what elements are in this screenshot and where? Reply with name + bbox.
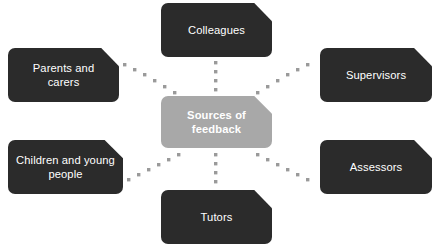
node-assessors: Assessors	[320, 140, 432, 194]
node-tutors-label: Tutors	[201, 210, 233, 224]
connector-center-tutors	[214, 153, 217, 183]
node-colleagues-label: Colleagues	[188, 23, 245, 37]
sources-of-feedback-diagram: Colleagues Parents and carers Supervisor…	[0, 0, 435, 247]
node-colleagues: Colleagues	[161, 3, 272, 57]
node-parents-and-carers-label: Parents and carers	[33, 61, 94, 89]
connector-center-parents	[123, 63, 176, 94]
connector-center-assessors	[256, 153, 309, 181]
node-parents-and-carers: Parents and carers	[8, 48, 119, 102]
connector-center-colleagues	[214, 61, 217, 91]
node-tutors: Tutors	[161, 190, 272, 244]
node-supervisors: Supervisors	[320, 48, 432, 102]
node-supervisors-label: Supervisors	[346, 68, 406, 82]
connector-center-supervisors	[256, 63, 309, 94]
node-sources-of-feedback-label: Sources of feedback	[187, 108, 246, 136]
connector-center-children	[127, 153, 180, 181]
node-children-and-young-people: Children and young people	[8, 140, 123, 194]
node-assessors-label: Assessors	[350, 160, 403, 174]
node-children-and-young-people-label: Children and young people	[16, 153, 115, 181]
node-sources-of-feedback: Sources of feedback	[161, 96, 272, 148]
